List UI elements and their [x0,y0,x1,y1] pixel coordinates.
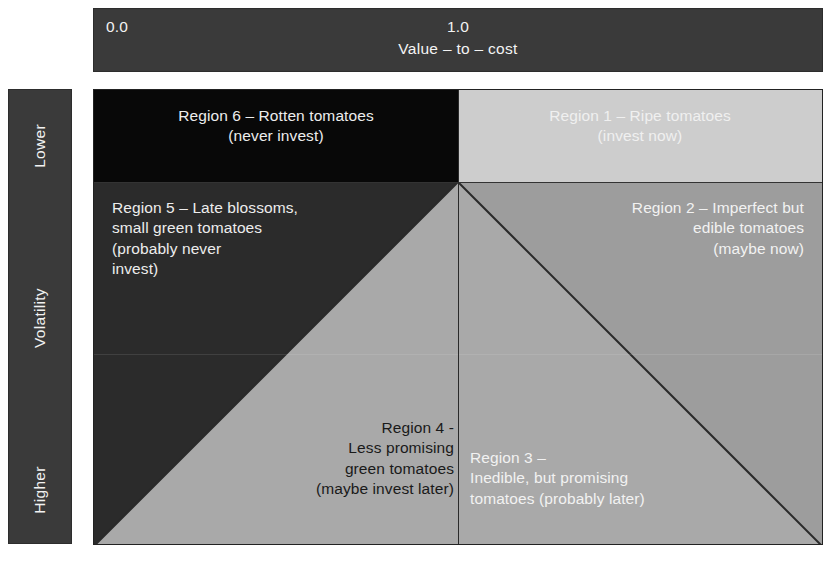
region-5-label: Region 5 – Late blossoms, small green to… [112,198,412,280]
matrix-plot-area: Region 6 – Rotten tomatoes (never invest… [93,89,823,545]
y-axis-title: Volatility [31,288,49,348]
region-2-label: Region 2 – Imperfect but edible tomatoes… [504,198,804,259]
region-1-label: Region 1 – Ripe tomatoes (invest now) [458,106,822,147]
y-axis-tick-bottom: Higher [31,466,49,513]
region-3-label: Region 3 – Inedible, but promising tomat… [470,448,760,509]
center-vertical-divider [458,90,459,544]
x-axis-title: Value – to – cost [94,40,822,58]
region-4-label: Region 4 - Less promising green tomatoes… [244,418,454,500]
x-axis-bar: 0.0 1.0 Value – to – cost [93,8,823,72]
y-axis-bar: Lower Volatility Higher [8,89,72,544]
x-axis-tick-mid: 1.0 [94,18,822,36]
matrix-figure: 0.0 1.0 Value – to – cost Lower Volatili… [0,0,829,565]
region-6-label: Region 6 – Rotten tomatoes (never invest… [94,106,458,147]
y-axis-tick-top: Lower [31,124,49,168]
